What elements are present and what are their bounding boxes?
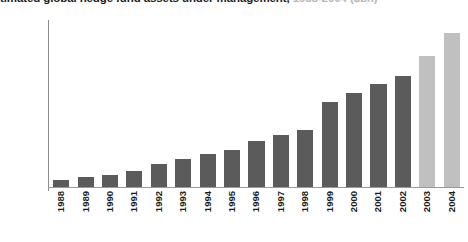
x-tick-label-1994: 1994 (203, 191, 213, 212)
x-tick-label-1990: 1990 (105, 191, 115, 212)
bar-slot (391, 20, 415, 187)
x-tick-label-1991: 1991 (129, 191, 139, 212)
x-label-slot: 1989 (73, 190, 97, 242)
chart-title-row: timated global hedge fund assets under m… (0, 0, 378, 5)
bar-slot (73, 20, 97, 187)
x-tick-label-2004: 2004 (447, 191, 457, 212)
x-label-slot: 2001 (366, 190, 390, 242)
x-tick-label-1989: 1989 (81, 191, 91, 212)
x-label-slot: 1995 (220, 190, 244, 242)
bar-slot (293, 20, 317, 187)
x-tick-label-2000: 2000 (349, 191, 359, 212)
x-label-slot: 1988 (49, 190, 73, 242)
bar-slot (195, 20, 219, 187)
x-tick-label-1988: 1988 (56, 191, 66, 212)
x-tick-label-1996: 1996 (251, 191, 261, 212)
x-label-slot: 1992 (147, 190, 171, 242)
chart-title-clip: timated global hedge fund assets under m… (0, 0, 468, 13)
bar-1996 (248, 141, 264, 187)
bar-1990 (102, 175, 118, 187)
bar-1989 (78, 177, 94, 187)
bar-slot (269, 20, 293, 187)
bar-1992 (151, 164, 167, 187)
bar-2004 (444, 33, 460, 187)
x-label-slot: 2002 (391, 190, 415, 242)
x-tick-label-1997: 1997 (276, 191, 286, 212)
bar-slot (122, 20, 146, 187)
x-tick-label-1992: 1992 (154, 191, 164, 212)
bar-slot (220, 20, 244, 187)
x-tick-label-2002: 2002 (398, 191, 408, 212)
x-label-slot: 1996 (244, 190, 268, 242)
bar-slot (244, 20, 268, 187)
x-tick-label-1999: 1999 (325, 191, 335, 212)
bar-slot (366, 20, 390, 187)
bar-2001 (370, 84, 386, 187)
bar-2002 (395, 76, 411, 187)
bar-1995 (224, 150, 240, 187)
bar-slot (317, 20, 341, 187)
x-label-slot: 2000 (342, 190, 366, 242)
chart-subtitle: 1988-2004 ($bn) (293, 0, 378, 4)
bar-1998 (297, 130, 313, 187)
bar-2000 (346, 93, 362, 187)
x-label-slot: 1990 (98, 190, 122, 242)
x-label-slot: 1997 (269, 190, 293, 242)
x-label-slot: 1991 (122, 190, 146, 242)
x-label-slot: 2003 (415, 190, 439, 242)
bar-1991 (126, 171, 142, 187)
bar-slot (171, 20, 195, 187)
chart-figure: timated global hedge fund assets under m… (0, 0, 468, 242)
x-axis-labels: 1988198919901991199219931994199519961997… (49, 190, 464, 242)
x-tick-label-1995: 1995 (227, 191, 237, 212)
bar-2003 (419, 56, 435, 187)
x-tick-label-2001: 2001 (373, 191, 383, 212)
chart-title: timated global hedge fund assets under m… (0, 0, 290, 4)
bar-series (49, 20, 464, 187)
bar-1999 (322, 102, 338, 187)
x-tick-label-1998: 1998 (300, 191, 310, 212)
bar-slot (98, 20, 122, 187)
bar-slot (440, 20, 464, 187)
bar-1997 (273, 135, 289, 187)
x-label-slot: 1993 (171, 190, 195, 242)
bar-slot (147, 20, 171, 187)
x-axis-line (48, 187, 464, 188)
bar-slot (415, 20, 439, 187)
bar-1993 (175, 159, 191, 187)
x-label-slot: 1998 (293, 190, 317, 242)
x-tick-label-2003: 2003 (422, 191, 432, 212)
bar-1988 (53, 180, 69, 187)
x-label-slot: 2004 (440, 190, 464, 242)
bar-slot (49, 20, 73, 187)
x-label-slot: 1994 (195, 190, 219, 242)
x-tick-label-1993: 1993 (178, 191, 188, 212)
x-label-slot: 1999 (317, 190, 341, 242)
bar-slot (342, 20, 366, 187)
bar-1994 (200, 154, 216, 187)
plot-area (48, 18, 464, 191)
